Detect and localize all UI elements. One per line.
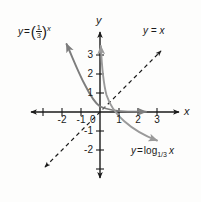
y-tick-label-2: 2 <box>83 69 93 79</box>
logarithmic-curve-label: y=log1/3x <box>131 146 174 158</box>
y-tick-label--1: -1 <box>78 126 93 136</box>
y-axis-label: y <box>96 15 102 26</box>
exponential-label-exponent: x <box>47 24 51 33</box>
logarithmic-curve <box>101 46 157 141</box>
x-tick-label--1: -1 <box>74 115 88 125</box>
graph-figure: x y 0 -2 -1 1 2 3 3 2 1 -1 -2 y=(13)x y … <box>0 0 201 202</box>
x-tick-label-2: 2 <box>132 115 144 125</box>
origin-label: 0 <box>90 115 96 125</box>
logarithmic-label-log: log <box>144 145 157 156</box>
exponential-label-close-paren: ) <box>42 23 47 40</box>
logarithmic-label-equals: = <box>136 145 144 156</box>
x-axis-label: x <box>184 106 190 117</box>
logarithmic-label-base: 1/3 <box>157 151 167 158</box>
x-tick-label--2: -2 <box>55 115 69 125</box>
y-tick-label-1: 1 <box>83 88 93 98</box>
logarithmic-label-argument: x <box>167 145 174 156</box>
x-tick-label-1: 1 <box>113 115 125 125</box>
x-tick-label-3: 3 <box>151 115 163 125</box>
y-tick-label--2: -2 <box>78 145 93 155</box>
exponential-label-equals: = <box>23 26 31 37</box>
exponential-curve-label: y=(13)x <box>18 24 51 41</box>
identity-line-label: y = x <box>143 26 164 36</box>
y-tick-label-3: 3 <box>83 50 93 60</box>
